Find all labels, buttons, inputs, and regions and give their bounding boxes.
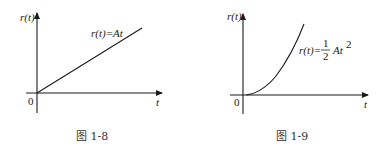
origin-label: 0	[28, 95, 34, 107]
x-axis-label: t	[364, 98, 368, 110]
x-axis-label: t	[156, 96, 160, 108]
fraction-numerator: 1	[323, 37, 329, 49]
parabolic-curve	[246, 24, 304, 95]
y-axis-label: r(t)	[20, 11, 35, 24]
fraction-denominator: 2	[323, 50, 329, 62]
curve-label: r(t)=At	[91, 27, 124, 40]
exponent: 2	[346, 38, 352, 50]
curve-label: r(t)= 1 2 At 2	[299, 37, 352, 62]
linear-curve	[37, 28, 142, 93]
origin-label: 0	[234, 96, 240, 108]
figure-1-9: r(t) 0 t r(t)= 1 2 At 2 图 1-9	[227, 10, 368, 143]
curve-label-prefix: r(t)=	[299, 44, 321, 57]
figure-caption: 图 1-9	[276, 130, 308, 143]
figure-1-8: r(t) 0 t r(t)=At 图 1-8	[20, 11, 162, 143]
figure-canvas: r(t) 0 t r(t)=At 图 1-8 r(t) 0 t r(t)= 1 …	[0, 0, 386, 152]
figure-caption: 图 1-8	[76, 130, 108, 143]
y-axis-label: r(t)	[227, 10, 242, 23]
curve-label-suffix: At	[332, 44, 344, 56]
